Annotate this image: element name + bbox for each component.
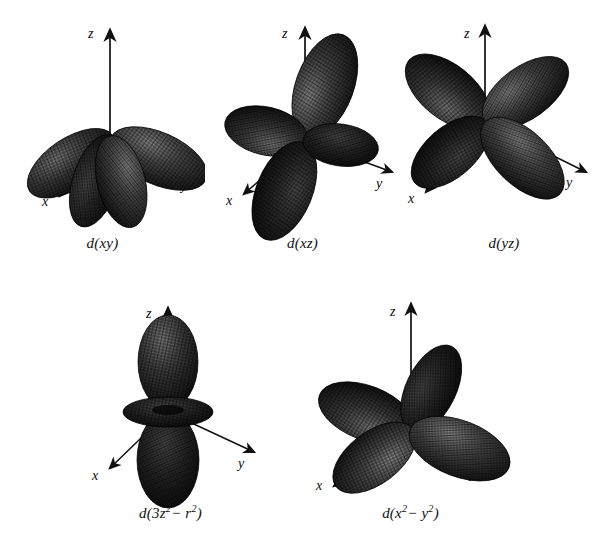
caption-dz2-mid: − r <box>171 505 191 521</box>
z-axis-label-dyz: z <box>463 26 470 41</box>
caption-dyz-prefix: d( <box>488 235 501 251</box>
orbital-panel-dxz: z y x <box>200 0 405 275</box>
caption-dx2y2-prefix: d( <box>382 505 395 521</box>
y-axis-label-dxz: y <box>374 176 383 191</box>
caption-dx2y2-suffix: ) <box>434 505 439 521</box>
caption-dxy-prefix: d( <box>87 235 100 251</box>
caption-dxy: d(xy) <box>0 235 205 252</box>
d-orbital-figure: z y x <box>0 0 608 555</box>
z-axis-label-dz2: z <box>145 306 152 321</box>
y-axis-label-dz2: y <box>236 456 245 471</box>
y-axis-label-dyz: y <box>564 175 573 190</box>
caption-dxz: d(xz) <box>200 235 405 252</box>
caption-dyz-body: yz <box>501 235 514 251</box>
orbital-lobes-dxz <box>220 25 381 250</box>
orbital-lobes-dz2 <box>123 315 213 508</box>
orbital-diagram-dx2y2: z y x <box>308 290 513 520</box>
z-axis-label-dxy: z <box>87 26 94 41</box>
orbital-lobes-dyz <box>400 39 581 213</box>
caption-dx2y2: d(x2− y2) <box>308 505 513 522</box>
z-axis-label-dx2y2: z <box>389 304 396 319</box>
orbital-panel-dyz: z y x <box>400 0 608 275</box>
caption-dxz-prefix: d( <box>287 235 300 251</box>
caption-dz2: d(3z2− r2) <box>68 505 273 522</box>
caption-dxz-suffix: ) <box>313 235 318 251</box>
z-axis-label-dxz: z <box>281 26 288 41</box>
caption-dxz-body: xz <box>300 235 313 251</box>
orbital-diagram-dxy: z y x <box>0 0 205 250</box>
caption-dz2-prefix: d(3 <box>139 505 160 521</box>
orbital-diagram-dxz: z y x <box>200 0 405 250</box>
caption-dx2y2-mid: − y <box>407 505 428 521</box>
orbital-diagram-dyz: z y x <box>400 0 608 250</box>
x-axis-label-dxz: x <box>225 193 233 208</box>
x-axis-label-dz2: x <box>91 468 99 483</box>
orbital-panel-dxy: z y x <box>0 0 205 275</box>
caption-dxy-suffix: ) <box>113 235 118 251</box>
orbital-panel-dx2y2: z y x <box>308 290 513 555</box>
caption-dz2-suffix: ) <box>197 505 202 521</box>
orbital-diagram-dz2: z y x <box>68 290 273 520</box>
caption-dyz: d(yz) <box>400 235 608 252</box>
x-axis-label-dyz: x <box>407 191 415 206</box>
caption-dyz-suffix: ) <box>514 235 519 251</box>
orbital-panel-dz2: z y x d(3z2− r2) <box>68 290 273 555</box>
caption-dx2y2-body: x <box>395 505 402 521</box>
caption-dxy-body: xy <box>99 235 113 251</box>
x-axis-label-dx2y2: x <box>315 478 323 493</box>
